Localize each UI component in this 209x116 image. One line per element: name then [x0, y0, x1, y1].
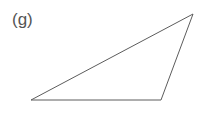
figure-container: (g)	[0, 0, 209, 116]
triangle-diagram-canvas	[0, 0, 209, 116]
triangle-shape	[31, 14, 193, 100]
